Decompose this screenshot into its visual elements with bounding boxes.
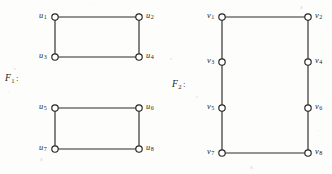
graph-vertex-u3 [52, 54, 58, 60]
graph-vertex-v6 [305, 105, 311, 111]
graph-vertex-u4 [136, 54, 142, 60]
vertex-label-v6: v6 [315, 103, 322, 111]
vertex-label-u6: u6 [146, 103, 154, 111]
graph-vertex-u6 [136, 105, 142, 111]
vertex-label-subscript: 1 [43, 14, 47, 20]
vertex-label-subscript: 5 [211, 105, 215, 111]
paper-speckle [12, 66, 13, 67]
graph-name-letter: F [172, 78, 178, 89]
graph-vertex-u8 [136, 146, 142, 152]
graph-vertex-v8 [305, 150, 311, 156]
vertex-label-subscript: 8 [319, 150, 323, 156]
graph-name-F1: F1: [5, 73, 19, 84]
vertex-label-u3: u3 [39, 52, 47, 60]
vertex-label-subscript: 4 [319, 59, 323, 65]
vertex-label-subscript: 6 [150, 105, 154, 111]
graph-vertex-u7 [52, 146, 58, 152]
vertex-label-v2: v2 [315, 12, 322, 20]
graph-vertex-v4 [305, 59, 311, 65]
vertex-label-u1: u1 [39, 12, 47, 20]
paper-speckle [250, 166, 253, 169]
vertex-label-v4: v4 [315, 57, 322, 65]
graph-vertex-v3 [219, 59, 225, 65]
graph-name-colon: : [14, 73, 18, 83]
graph-name-colon: : [181, 79, 185, 89]
vertex-label-u5: u5 [39, 103, 47, 111]
vertex-label-v1: v1 [207, 12, 214, 20]
vertex-label-u8: u8 [146, 144, 154, 152]
graph-vertex-u1 [52, 14, 58, 20]
paper-speckle [300, 6, 303, 9]
vertex-label-subscript: 8 [150, 146, 154, 152]
vertex-label-subscript: 6 [319, 105, 323, 111]
vertex-label-v8: v8 [315, 148, 322, 156]
vertex-label-u7: u7 [39, 144, 47, 152]
vertex-label-subscript: 7 [43, 146, 47, 152]
vertex-label-subscript: 3 [43, 54, 47, 60]
paper-speckle [170, 58, 172, 60]
vertex-label-subscript: 2 [150, 14, 154, 20]
graph-name-F2: F2: [172, 79, 186, 90]
paper-speckle [318, 130, 319, 131]
graph-vertex-v5 [219, 105, 225, 111]
vertex-label-subscript: 7 [211, 150, 215, 156]
vertex-label-subscript: 1 [211, 14, 215, 20]
graph-vertex-v1 [219, 14, 225, 20]
vertex-label-subscript: 4 [150, 54, 154, 60]
vertex-label-v3: v3 [207, 57, 214, 65]
vertex-label-u2: u2 [146, 12, 154, 20]
graph-name-letter: F [5, 72, 11, 83]
paper-speckle [8, 92, 9, 93]
vertex-label-subscript: 5 [43, 105, 47, 111]
vertex-label-subscript: 3 [211, 59, 215, 65]
vertex-label-v7: v7 [207, 148, 214, 156]
graph-vertex-u2 [136, 14, 142, 20]
vertex-label-subscript: 2 [319, 14, 323, 20]
paper-speckle [14, 68, 16, 70]
paper-speckle [40, 158, 43, 161]
graph-vertex-v7 [219, 150, 225, 156]
figure-canvas: u1u2u3u4u5u6u7u8F1:v1v2v3v4v5v6v7v8F2: [0, 0, 332, 174]
graph-drawing-svg [0, 0, 332, 174]
graph-vertex-v2 [305, 14, 311, 20]
vertex-label-v5: v5 [207, 103, 214, 111]
paper-speckle [196, 96, 198, 98]
graph-vertex-u5 [52, 105, 58, 111]
paper-speckle [90, 4, 91, 5]
vertex-label-u4: u4 [146, 52, 154, 60]
